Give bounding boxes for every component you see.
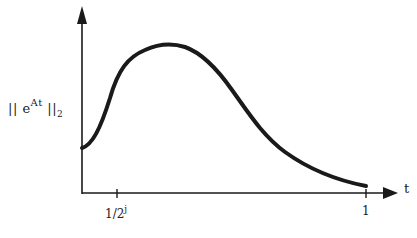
- y-axis-arrow-icon: [77, 6, 87, 24]
- y-axis-label: || eAt ||2: [8, 97, 63, 119]
- x-axis-arrow-icon: [383, 187, 398, 199]
- tick-label-half-j: 1/2j: [105, 204, 127, 221]
- diagram-canvas: || eAt ||2 t 1/2j 1: [0, 0, 417, 238]
- norm-curve: [82, 45, 366, 186]
- x-axis-label: t: [404, 181, 409, 196]
- tick-label-one: 1: [362, 204, 370, 218]
- plot-svg: [0, 0, 417, 238]
